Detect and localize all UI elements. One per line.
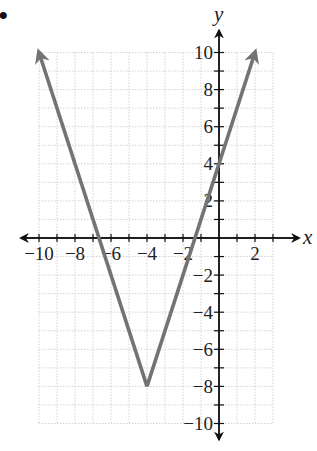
- x-axis-label: x: [302, 225, 313, 249]
- x-tick-label: 2: [250, 243, 260, 264]
- y-tick-label: −4: [193, 302, 214, 323]
- bullet: •: [0, 0, 9, 32]
- y-axis-label: y: [212, 2, 224, 26]
- y-tick-label: 6: [204, 116, 214, 137]
- y-tick-label: 8: [204, 79, 214, 100]
- x-tick-label: −10: [24, 243, 54, 264]
- coordinate-plane: • −10−8−6−4−22108642−2−4−6−8−10 x y: [0, 0, 317, 451]
- y-tick-label: −2: [193, 265, 213, 286]
- x-tick-label: −8: [65, 243, 85, 264]
- x-tick-label: −4: [137, 243, 158, 264]
- y-tick-label: −10: [183, 413, 213, 434]
- y-tick-label: −6: [193, 339, 213, 360]
- y-tick-label: −8: [193, 376, 213, 397]
- axes: [21, 31, 299, 440]
- y-tick-label: 10: [194, 42, 213, 63]
- y-tick-label: 4: [204, 153, 214, 174]
